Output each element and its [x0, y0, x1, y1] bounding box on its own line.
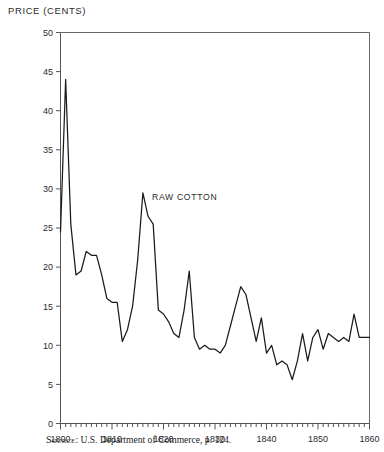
axis-spines — [61, 33, 370, 424]
y-tick-label: 50 — [43, 28, 53, 38]
raw-cotton-price-chart: 0510152025303540455018001810182018301840… — [0, 0, 384, 452]
annotation-layer: RAW COTTON — [152, 192, 217, 202]
y-tick-label: 25 — [43, 223, 53, 233]
y-tick-label: 45 — [43, 67, 53, 77]
chart-figure: PRICE (CENTS) 05101520253035404550180018… — [0, 0, 384, 452]
source-label: Source — [46, 434, 75, 445]
series-annotation-label: RAW COTTON — [152, 192, 217, 202]
x-tick-label: 1840 — [256, 434, 276, 444]
y-tick-label: 10 — [43, 341, 53, 351]
x-tick-label: 1850 — [308, 434, 328, 444]
y-tick-label: 35 — [43, 145, 53, 155]
series-raw-cotton — [61, 79, 370, 379]
y-tick-label: 0 — [48, 419, 53, 429]
y-tick-label: 30 — [43, 184, 53, 194]
y-tick-label: 40 — [43, 106, 53, 116]
series-layer — [61, 79, 370, 379]
y-tick-label: 20 — [43, 262, 53, 272]
source-note: Source: U.S. Department of Commerce, p. … — [46, 434, 231, 445]
axes-layer: 0510152025303540455018001810182018301840… — [43, 28, 380, 444]
y-tick-label: 15 — [43, 302, 53, 312]
source-citation: : U.S. Department of Commerce, p. 124. — [75, 434, 231, 445]
plot-frame — [61, 33, 370, 424]
y-tick-label: 5 — [48, 380, 53, 390]
x-tick-label: 1860 — [359, 434, 379, 444]
